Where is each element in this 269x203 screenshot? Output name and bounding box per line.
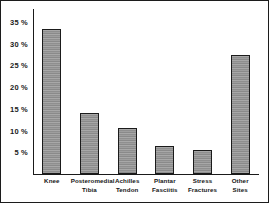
x-axis-category-label-line: Achilles xyxy=(108,177,146,186)
bar[interactable] xyxy=(42,29,61,174)
y-axis-tick-label: 25 % xyxy=(10,61,28,70)
x-axis-category-label: Knee xyxy=(33,177,71,186)
x-axis-category-label: PlantarFasciitis xyxy=(146,177,184,194)
bar-slot xyxy=(33,9,71,174)
bar[interactable] xyxy=(193,150,212,174)
x-axis-category-labels: KneePosteromedialTibiaAchillesTendonPlan… xyxy=(33,177,259,203)
x-axis-category-label: StressFractures xyxy=(184,177,222,194)
y-axis-tick-label: 20 % xyxy=(10,83,28,92)
bar[interactable] xyxy=(155,146,174,174)
y-axis-tick-label: 15 % xyxy=(10,104,28,113)
x-axis-line xyxy=(33,174,259,175)
bar[interactable] xyxy=(231,55,250,174)
bar-slot xyxy=(146,9,184,174)
bar-slot xyxy=(108,9,146,174)
x-axis-category-label-line: Posteromedial xyxy=(71,177,109,186)
y-axis-tick-label: 30 % xyxy=(10,39,28,48)
bar-slot xyxy=(221,9,259,174)
y-axis-tick-label: 5 % xyxy=(14,148,28,157)
x-axis-category-label-line: Stress xyxy=(184,177,222,186)
x-axis-category-label-line: Sites xyxy=(221,186,259,195)
y-axis-tick-label: 10 % xyxy=(10,126,28,135)
bar-slot xyxy=(71,9,109,174)
bar-slot xyxy=(184,9,222,174)
x-axis-category-label: PosteromedialTibia xyxy=(71,177,109,194)
x-axis-category-label-line: Fasciitis xyxy=(146,186,184,195)
bars-layer xyxy=(33,9,259,174)
x-axis-category-label-line: Plantar xyxy=(146,177,184,186)
x-axis-category-label-line: Knee xyxy=(33,177,71,186)
x-axis-category-label-line: Other xyxy=(221,177,259,186)
x-axis-category-label-line: Tendon xyxy=(108,186,146,195)
x-axis-category-label: AchillesTendon xyxy=(108,177,146,194)
bar-chart-figure: 5 %10 %15 %20 %25 %30 %35 % KneePosterom… xyxy=(0,0,269,203)
x-axis-category-label-line: Tibia xyxy=(71,186,109,195)
x-axis-category-label-line: Fractures xyxy=(184,186,222,195)
x-axis-category-label: OtherSites xyxy=(221,177,259,194)
bar[interactable] xyxy=(118,128,137,174)
y-axis-tick-labels: 5 %10 %15 %20 %25 %30 %35 % xyxy=(1,1,31,203)
bar[interactable] xyxy=(80,113,99,174)
y-axis-tick-label: 35 % xyxy=(10,18,28,27)
